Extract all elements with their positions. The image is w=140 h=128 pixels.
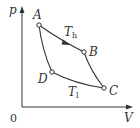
isotherm-cold-label: Tl [68,85,79,100]
point-C-marker [102,86,106,90]
x-axis-arrow-icon [126,105,133,110]
point-B-marker [82,50,86,54]
direction-arrow-icon [62,40,71,46]
y-axis-label: p [9,3,17,17]
origin-label: 0 [10,112,17,125]
x-axis-label: V [124,111,134,125]
point-A-marker [37,23,41,27]
point-C-label: C [109,84,118,98]
pv-diagram: p V 0 A B C D Th Tl [0,0,140,128]
point-A-label: A [32,8,42,22]
isotherm-cold-CD [52,72,104,88]
isotherm-hot-AB [39,25,84,52]
point-D-label: D [37,72,48,86]
point-B-label: B [88,45,98,59]
isotherm-hot-label: Th [64,25,77,40]
y-axis-arrow-icon [20,6,25,13]
point-D-marker [50,70,54,74]
